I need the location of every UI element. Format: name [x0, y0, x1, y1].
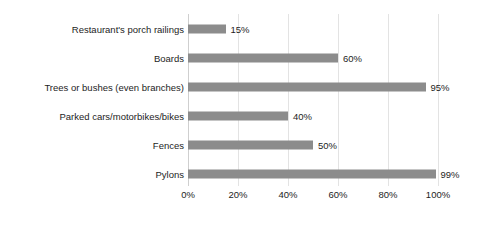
- x-tick-label: 80%: [378, 189, 397, 201]
- bar-row: Restaurant's porch railings 15%: [188, 14, 438, 43]
- bar-value-label: 99%: [441, 168, 460, 179]
- bar: [188, 24, 226, 33]
- bar: [188, 169, 436, 178]
- bar-value-label: 50%: [318, 139, 337, 150]
- x-axis: 0% 20% 40% 60% 80% 100%: [188, 189, 438, 203]
- category-label: Trees or bushes (even branches): [44, 81, 184, 92]
- x-tick-label: 0%: [181, 189, 195, 201]
- category-label: Boards: [154, 52, 184, 63]
- bar-row: Parked cars/motorbikes/bikes 40%: [188, 101, 438, 130]
- bar-value-label: 95%: [431, 81, 450, 92]
- bar-row: Trees or bushes (even branches) 95%: [188, 72, 438, 101]
- bar-row: Boards 60%: [188, 43, 438, 72]
- category-label: Fences: [153, 139, 184, 150]
- x-tick-label: 60%: [328, 189, 347, 201]
- bar: [188, 53, 338, 62]
- bar-row: Fences 50%: [188, 130, 438, 159]
- category-label: Parked cars/motorbikes/bikes: [59, 110, 184, 121]
- bar-value-label: 40%: [293, 110, 312, 121]
- gridline-100: [438, 14, 439, 186]
- category-label: Pylons: [155, 168, 184, 179]
- category-label: Restaurant's porch railings: [72, 23, 184, 34]
- x-tick-label: 40%: [278, 189, 297, 201]
- bar-value-label: 15%: [231, 23, 250, 34]
- plot-area: Restaurant's porch railings 15% Boards 6…: [188, 14, 438, 186]
- bar: [188, 82, 426, 91]
- x-tick-label: 20%: [228, 189, 247, 201]
- bar: [188, 111, 288, 120]
- bar: [188, 140, 313, 149]
- bar-row: Pylons 99%: [188, 159, 438, 188]
- x-tick-label: 100%: [426, 189, 450, 201]
- bar-chart: Restaurant's porch railings 15% Boards 6…: [0, 0, 479, 227]
- bar-value-label: 60%: [343, 52, 362, 63]
